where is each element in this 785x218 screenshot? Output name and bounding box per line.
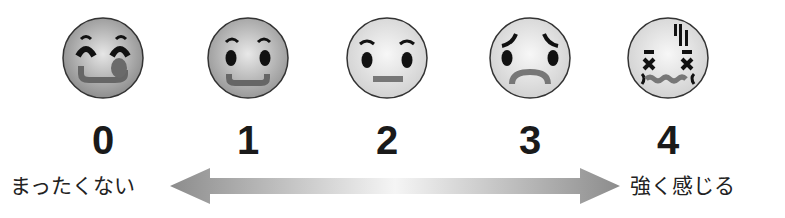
double-arrow-icon: [170, 166, 620, 206]
smiling-face-icon: [206, 16, 290, 100]
left-label-none: まったくない: [10, 172, 135, 200]
scale-value-2: 2: [357, 118, 417, 162]
scale-value-3: 3: [500, 118, 560, 162]
neutral-face-icon: [345, 16, 429, 100]
sad-worried-face-icon: [488, 16, 572, 100]
distressed-face-icon: [626, 16, 710, 100]
right-label-strong: 強く感じる: [630, 172, 735, 200]
scale-value-1: 1: [218, 118, 278, 162]
scale-value-4: 4: [638, 118, 698, 162]
scale-value-0: 0: [73, 118, 133, 162]
delighted-face-icon: [61, 16, 145, 100]
